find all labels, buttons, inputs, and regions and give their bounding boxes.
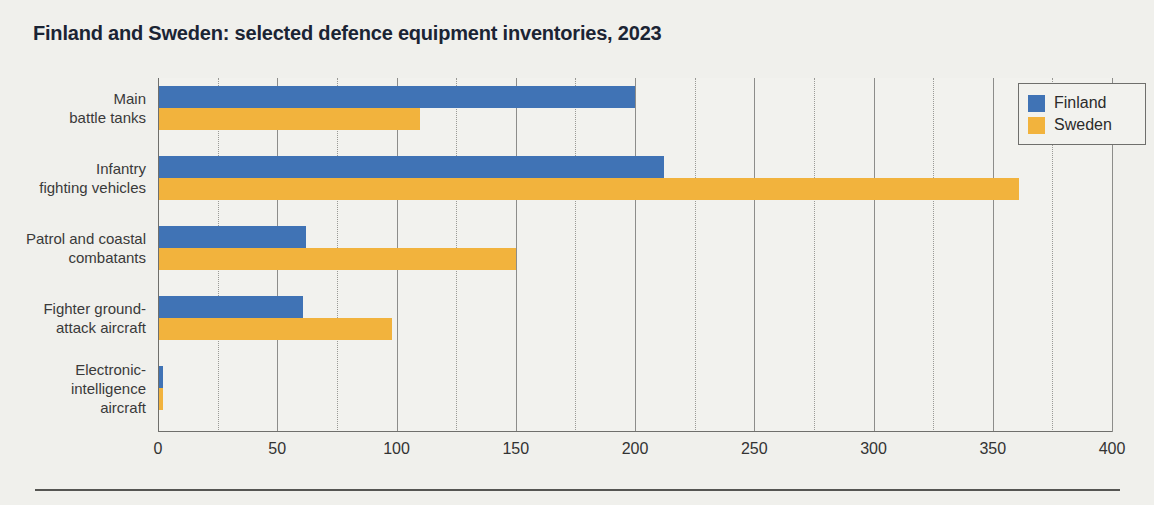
gridline-minor [814, 78, 816, 432]
x-axis-line [158, 431, 1112, 432]
gridline-major [635, 78, 637, 432]
category-label-line: combatants [0, 248, 146, 267]
gridline-minor [933, 78, 935, 432]
category-label-line: Fighter ground- [0, 299, 146, 318]
legend-swatch-icon-sweden [1028, 117, 1045, 134]
category-label-line: battle tanks [0, 108, 146, 127]
category-label-4: Electronic-intelligenceaircraft [0, 360, 146, 417]
bar-sweden-1 [158, 178, 1019, 200]
category-label-3: Fighter ground-attack aircraft [0, 299, 146, 337]
x-tick-label-300: 300 [860, 440, 887, 458]
bar-finland-0 [158, 86, 635, 108]
gridline-minor [575, 78, 577, 432]
bar-sweden-0 [158, 108, 420, 130]
bar-sweden-3 [158, 318, 392, 340]
chart-container: Finland and Sweden: selected defence equ… [0, 0, 1154, 505]
x-tick-label-250: 250 [741, 440, 768, 458]
gridline-major [874, 78, 876, 432]
x-tick-label-50: 50 [268, 440, 286, 458]
chart-legend: Finland Sweden [1018, 83, 1146, 145]
category-label-line: Electronic- [0, 360, 146, 379]
x-tick-label-400: 400 [1099, 440, 1126, 458]
gridline-major [993, 78, 995, 432]
gridline-major [754, 78, 756, 432]
category-label-0: Mainbattle tanks [0, 89, 146, 127]
gridline-major [516, 78, 518, 432]
category-label-2: Patrol and coastalcombatants [0, 229, 146, 267]
chart-title: Finland and Sweden: selected defence equ… [33, 22, 662, 45]
bar-finland-3 [158, 296, 303, 318]
x-tick-label-100: 100 [383, 440, 410, 458]
category-label-line: Main [0, 89, 146, 108]
x-tick-label-0: 0 [154, 440, 163, 458]
x-tick-label-350: 350 [979, 440, 1006, 458]
bar-finland-1 [158, 156, 664, 178]
gridline-minor [695, 78, 697, 432]
category-label-line: fighting vehicles [0, 178, 146, 197]
category-label-line: Infantry [0, 159, 146, 178]
legend-item-sweden: Sweden [1028, 114, 1135, 136]
bar-sweden-2 [158, 248, 516, 270]
legend-label-sweden: Sweden [1054, 116, 1112, 134]
legend-label-finland: Finland [1054, 94, 1106, 112]
x-tick-label-200: 200 [622, 440, 649, 458]
category-label-1: Infantryfighting vehicles [0, 159, 146, 197]
category-label-line: intelligence [0, 379, 146, 398]
plot-area [158, 78, 1112, 432]
y-axis-line [158, 78, 159, 432]
legend-swatch-icon-finland [1028, 95, 1045, 112]
x-tick-label-150: 150 [502, 440, 529, 458]
legend-item-finland: Finland [1028, 92, 1135, 114]
category-label-line: aircraft [0, 398, 146, 417]
category-label-line: attack aircraft [0, 318, 146, 337]
footer-rule [35, 489, 1120, 491]
bar-finland-2 [158, 226, 306, 248]
category-label-line: Patrol and coastal [0, 229, 146, 248]
